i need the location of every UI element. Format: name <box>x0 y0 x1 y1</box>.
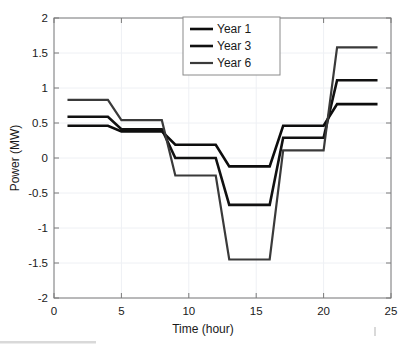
y-tick-label: 1 <box>42 82 48 94</box>
x-tick-label: 25 <box>385 305 398 317</box>
x-tick-label: 10 <box>182 305 195 317</box>
y-tick-label: -1 <box>38 222 48 234</box>
figure-container: -2-1.5-1-0.500.511.52 0510152025 Time (h… <box>0 0 413 345</box>
legend-label-year-3: Year 3 <box>217 39 252 53</box>
power-profile-line-chart: -2-1.5-1-0.500.511.52 0510152025 Time (h… <box>0 0 413 345</box>
y-tick-label: -2 <box>38 292 48 304</box>
y-tick-label: -1.5 <box>28 257 48 269</box>
x-axis-title: Time (hour) <box>172 322 234 336</box>
y-tick-label: 0.5 <box>32 117 48 129</box>
y-tick-label: 1.5 <box>32 47 48 59</box>
y-tick-label: 0 <box>42 152 48 164</box>
series-line-year-1 <box>67 104 377 166</box>
x-tick-label: 15 <box>250 305 263 317</box>
y-axis-tick-labels: -2-1.5-1-0.500.511.52 <box>28 12 48 304</box>
y-axis-title: Power (MW) <box>8 125 22 192</box>
chart-legend: Year 1 Year 3 Year 6 <box>183 17 280 75</box>
caption-edge-artifact-right <box>374 327 376 336</box>
y-tick-label: 2 <box>42 12 48 24</box>
legend-label-year-6: Year 6 <box>217 56 252 70</box>
legend-label-year-1: Year 1 <box>217 22 252 36</box>
x-tick-label: 5 <box>118 305 124 317</box>
caption-edge-artifact <box>0 341 96 344</box>
x-tick-label: 0 <box>51 305 57 317</box>
x-tick-label: 20 <box>317 305 330 317</box>
x-axis-tick-labels: 0510152025 <box>51 305 398 317</box>
y-tick-label: -0.5 <box>28 187 48 199</box>
